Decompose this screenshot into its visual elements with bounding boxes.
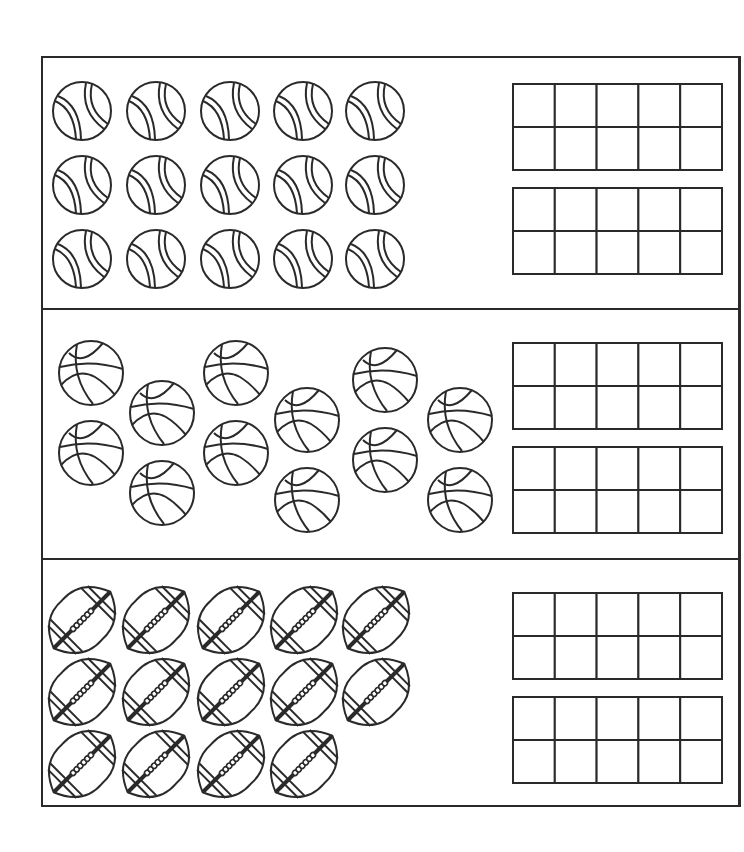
tennis-ball-icon: [53, 230, 111, 288]
worksheet: Count the sports balls and fill the ten …: [41, 56, 741, 807]
football-group: [43, 560, 743, 809]
ten-frame-cell[interactable]: [513, 84, 555, 127]
section-tennis-balls: tennis ball: [43, 58, 738, 309]
basketball-icon: [59, 421, 123, 485]
ten-frame-cell[interactable]: [597, 84, 639, 127]
ten-frame-cell[interactable]: [638, 343, 680, 386]
ten-frame-cell[interactable]: [680, 447, 722, 490]
basketball-group: [43, 310, 743, 561]
ten-frame-cell[interactable]: [513, 127, 555, 170]
ten-frame-cell[interactable]: [638, 84, 680, 127]
ten-frame-cell[interactable]: [555, 447, 597, 490]
football-icon: [183, 644, 279, 740]
basketball-icon: [353, 428, 417, 492]
ten-frame-cell[interactable]: [680, 188, 722, 231]
ten-frame-cell[interactable]: [638, 127, 680, 170]
ten-frame-cell[interactable]: [638, 490, 680, 533]
football-icon: [108, 716, 204, 812]
tennis-ball-icon: [127, 156, 185, 214]
tennis-ball-icon: [127, 230, 185, 288]
ten-frame: [513, 343, 722, 429]
tennis-ball-icon: [346, 230, 404, 288]
ten-frame-cell[interactable]: [680, 697, 722, 740]
football-icon: [328, 644, 424, 740]
ten-frame-cell[interactable]: [638, 231, 680, 274]
basketball-icon: [130, 461, 194, 525]
ten-frame-cell[interactable]: [555, 188, 597, 231]
ten-frame-cell[interactable]: [555, 231, 597, 274]
ten-frame-cell[interactable]: [513, 447, 555, 490]
ten-frame-cell[interactable]: [680, 231, 722, 274]
ten-frame-cell[interactable]: [555, 84, 597, 127]
football-icon: [183, 716, 279, 812]
ten-frame-cell[interactable]: [597, 697, 639, 740]
tennis-ball-icon: [346, 156, 404, 214]
football-icon: [34, 644, 130, 740]
ten-frame-cell[interactable]: [597, 343, 639, 386]
ten-frame-cell[interactable]: [597, 490, 639, 533]
ten-frame-cell[interactable]: [513, 697, 555, 740]
ten-frame-cell[interactable]: [513, 740, 555, 783]
tennis-ball-icon: [127, 82, 185, 140]
ten-frame-cell[interactable]: [680, 740, 722, 783]
ten-frame-cell[interactable]: [555, 740, 597, 783]
tennis-ball-icon: [274, 82, 332, 140]
ten-frame-cell[interactable]: [680, 386, 722, 429]
football-icon: [256, 644, 352, 740]
ten-frame-cell[interactable]: [680, 636, 722, 679]
ten-frame-cell[interactable]: [638, 636, 680, 679]
ten-frame-cell[interactable]: [513, 386, 555, 429]
ten-frame-cell[interactable]: [597, 188, 639, 231]
ten-frame-cell[interactable]: [555, 593, 597, 636]
tennis-ball-icon: [274, 156, 332, 214]
ten-frame-cell[interactable]: [638, 740, 680, 783]
ten-frame-cell[interactable]: [680, 84, 722, 127]
basketball-icon: [275, 468, 339, 532]
ten-frame-cell[interactable]: [597, 740, 639, 783]
ten-frame: [513, 447, 722, 533]
ten-frame-cell[interactable]: [638, 447, 680, 490]
ten-frame-cell[interactable]: [513, 636, 555, 679]
ten-frame-cell[interactable]: [555, 636, 597, 679]
ten-frame-cell[interactable]: [597, 127, 639, 170]
ten-frame-cell[interactable]: [638, 188, 680, 231]
ten-frame-cell[interactable]: [555, 490, 597, 533]
ten-frame-cell[interactable]: [597, 636, 639, 679]
ten-frame-cell[interactable]: [513, 490, 555, 533]
ten-frame-cell[interactable]: [513, 593, 555, 636]
basketball-icon: [428, 388, 492, 452]
ten-frame-cell[interactable]: [680, 490, 722, 533]
ten-frame: [513, 593, 722, 679]
ten-frame-cell[interactable]: [597, 386, 639, 429]
tennis-ball-icon: [274, 230, 332, 288]
basketball-icon: [204, 421, 268, 485]
ten-frame-cell[interactable]: [597, 447, 639, 490]
football-icon: [183, 572, 279, 668]
ten-frame-cell[interactable]: [513, 231, 555, 274]
tennis-ball-group: [43, 58, 743, 309]
ten-frame-cell[interactable]: [680, 343, 722, 386]
football-icon: [108, 572, 204, 668]
basketball-icon: [353, 348, 417, 412]
ten-frame: [513, 188, 722, 274]
ten-frame-cell[interactable]: [680, 127, 722, 170]
ten-frame-cell[interactable]: [513, 188, 555, 231]
basketball-icon: [275, 388, 339, 452]
tennis-ball-icon: [346, 82, 404, 140]
ten-frame-cell[interactable]: [680, 593, 722, 636]
ten-frame-cell[interactable]: [638, 697, 680, 740]
ten-frame-cell[interactable]: [597, 593, 639, 636]
tennis-ball-icon: [53, 156, 111, 214]
ten-frame-cell[interactable]: [638, 386, 680, 429]
basketball-icon: [428, 468, 492, 532]
basketball-icon: [130, 381, 194, 445]
ten-frame-cell[interactable]: [638, 593, 680, 636]
football-icon: [256, 716, 352, 812]
ten-frame-cell[interactable]: [555, 127, 597, 170]
ten-frame-cell[interactable]: [555, 697, 597, 740]
ten-frame-cell[interactable]: [555, 343, 597, 386]
football-icon: [108, 644, 204, 740]
ten-frame-cell[interactable]: [555, 386, 597, 429]
ten-frame-cell[interactable]: [513, 343, 555, 386]
ten-frame-cell[interactable]: [597, 231, 639, 274]
